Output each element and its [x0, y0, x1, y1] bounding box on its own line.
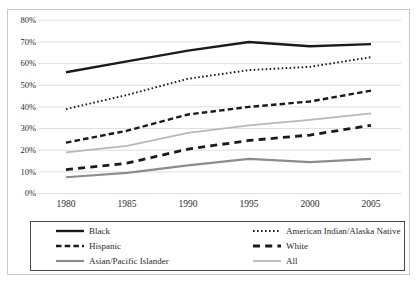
legend-swatch-dashed	[56, 242, 84, 250]
legend-swatch-solid	[56, 257, 84, 265]
legend-swatch-long-dash	[253, 242, 281, 250]
y-tick-label: 60%	[20, 58, 36, 68]
legend-item-asian-pacific-islander: Asian/Pacific Islander	[56, 256, 253, 267]
legend-swatch-solid	[253, 257, 281, 265]
y-tick-label: 80%	[20, 15, 36, 25]
y-tick-label: 20%	[20, 145, 36, 155]
x-tick-label: 1985	[118, 199, 137, 209]
x-tick-label: 2005	[362, 199, 381, 209]
x-tick-label: 2000	[301, 199, 320, 209]
legend-label: Black	[89, 226, 110, 237]
y-tick-label: 40%	[20, 102, 36, 112]
y-tick-label: 70%	[20, 37, 36, 47]
chart-canvas: 0%10%20%30%40%50%60%70%80%19801985199019…	[0, 0, 419, 285]
y-tick-label: 50%	[20, 80, 36, 90]
x-tick-label: 1980	[57, 199, 76, 209]
line-chart: 0%10%20%30%40%50%60%70%80%19801985199019…	[0, 0, 419, 221]
legend-item-black: Black	[56, 226, 253, 237]
y-tick-label: 10%	[20, 167, 36, 177]
x-tick-label: 1995	[240, 199, 259, 209]
series-line-asian-pacific-islander	[66, 159, 371, 177]
legend-label: All	[286, 256, 298, 267]
legend-item-all: All	[253, 256, 404, 267]
y-tick-label: 0%	[25, 188, 36, 198]
chart-legend: BlackAmerican Indian/Alaska NativeHispan…	[30, 221, 405, 271]
legend-swatch-solid	[56, 227, 84, 235]
legend-item-american-indian-alaska-native: American Indian/Alaska Native	[253, 226, 404, 237]
x-tick-label: 1990	[179, 199, 198, 209]
series-line-black	[66, 42, 371, 72]
y-tick-label: 30%	[20, 123, 36, 133]
legend-label: Hispanic	[89, 241, 121, 252]
legend-label: Asian/Pacific Islander	[89, 256, 169, 267]
legend-swatch-dotted	[253, 227, 281, 235]
series-line-hispanic	[66, 91, 371, 143]
legend-item-white: White	[253, 241, 404, 252]
legend-item-hispanic: Hispanic	[56, 241, 253, 252]
legend-label: White	[286, 241, 308, 252]
legend-label: American Indian/Alaska Native	[286, 226, 400, 237]
